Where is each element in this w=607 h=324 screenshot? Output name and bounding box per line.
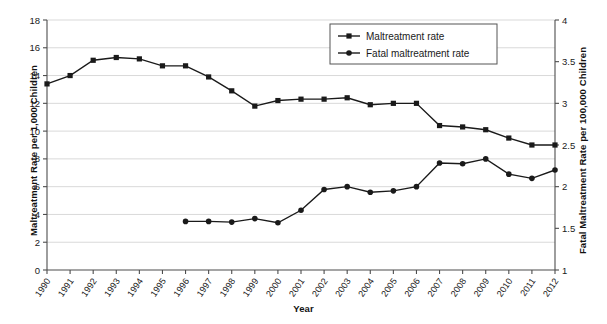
x-tick-label: 2004	[356, 276, 376, 298]
data-point-marker	[183, 63, 188, 68]
x-tick-label: 2011	[518, 276, 537, 298]
x-tick-label: 2006	[402, 276, 422, 298]
x-axis-ticks: 1990199119921993199419951996199719981999…	[33, 270, 561, 299]
y-tick-label-left: 18	[29, 15, 40, 26]
data-point-marker	[298, 207, 304, 213]
data-point-marker	[552, 167, 558, 173]
y-tick-label-right: 3	[562, 98, 567, 109]
data-point-marker	[160, 63, 165, 68]
data-point-marker	[437, 123, 442, 128]
data-point-marker	[506, 171, 512, 177]
data-point-marker	[183, 219, 189, 225]
x-tick-label: 1991	[56, 276, 76, 298]
data-point-marker	[391, 101, 396, 106]
x-tick-label: 1993	[102, 276, 122, 298]
x-axis-label: Year	[0, 303, 607, 314]
x-tick-label: 2005	[379, 276, 399, 298]
data-point-marker	[506, 135, 511, 140]
x-tick-label: 1990	[33, 276, 53, 298]
y-tick-label-right: 1	[562, 265, 567, 276]
data-point-marker	[252, 216, 258, 222]
x-tick-label: 2002	[310, 276, 330, 298]
x-tick-label: 2009	[472, 276, 492, 298]
x-tick-label: 2000	[264, 276, 284, 298]
x-tick-label: 1995	[148, 276, 168, 298]
data-point-marker	[275, 220, 281, 226]
chart-container: Maltreatment Rate per 1,000 Children Fat…	[0, 0, 607, 324]
data-point-marker	[137, 56, 142, 61]
data-point-marker	[206, 74, 211, 79]
chart-plot-area: 024681012141618 11.522.533.54 1990199119…	[0, 0, 607, 324]
data-point-marker	[91, 58, 96, 63]
x-tick-label: 1992	[79, 276, 99, 298]
data-point-marker	[298, 97, 303, 102]
data-point-marker	[252, 104, 257, 109]
data-point-marker	[552, 142, 557, 147]
data-point-marker	[437, 160, 443, 166]
x-tick-label: 1999	[241, 276, 261, 298]
data-point-marker	[367, 189, 373, 195]
data-point-marker	[529, 176, 535, 182]
y-tick-label-right: 1.5	[562, 223, 575, 234]
x-tick-label: 1998	[218, 276, 238, 298]
x-tick-label: 1996	[172, 276, 192, 298]
y-tick-label-right: 2	[562, 181, 567, 192]
data-point-marker	[229, 88, 234, 93]
chart-legend: Maltreatment rateFatal maltreatment rate	[330, 24, 497, 64]
x-tick-label: 2008	[449, 276, 469, 298]
data-point-marker	[275, 98, 280, 103]
x-tick-label: 2010	[495, 276, 515, 298]
data-point-marker	[391, 188, 397, 194]
legend-label: Fatal maltreatment rate	[366, 48, 470, 59]
x-tick-label: 2012	[541, 276, 561, 298]
y-axis-label-right: Fatal Maltreatment Rate per 100,000 Chil…	[577, 26, 588, 276]
data-point-marker	[529, 142, 534, 147]
data-point-marker	[206, 219, 212, 225]
data-point-marker	[483, 156, 489, 162]
data-point-marker	[229, 219, 235, 225]
y-axis-ticks-right: 11.522.533.54	[555, 15, 575, 276]
data-point-marker	[368, 102, 373, 107]
y-tick-label-right: 3.5	[562, 56, 575, 67]
legend-label: Maltreatment rate	[366, 31, 445, 42]
data-point-marker	[414, 101, 419, 106]
legend-marker-circle	[346, 50, 352, 56]
data-series-layer	[44, 55, 557, 226]
data-point-marker	[44, 81, 49, 86]
x-tick-label: 2007	[426, 276, 446, 298]
data-point-marker	[114, 55, 119, 60]
data-point-marker	[414, 184, 420, 190]
data-point-marker	[483, 127, 488, 132]
x-tick-label: 1994	[125, 276, 145, 298]
data-point-marker	[345, 95, 350, 100]
data-point-marker	[344, 184, 350, 190]
x-tick-label: 2001	[287, 276, 307, 298]
x-tick-label: 2003	[333, 276, 353, 298]
data-point-marker	[460, 124, 465, 129]
y-axis-label-left: Maltreatment Rate per 1,000 Children	[28, 26, 39, 276]
data-point-marker	[321, 187, 327, 193]
data-point-marker	[321, 97, 326, 102]
data-point-marker	[460, 161, 466, 167]
y-tick-label-right: 2.5	[562, 140, 575, 151]
x-tick-label: 1997	[195, 276, 215, 298]
data-point-marker	[67, 73, 72, 78]
y-tick-label-right: 4	[562, 15, 567, 26]
legend-marker-square	[346, 33, 351, 38]
